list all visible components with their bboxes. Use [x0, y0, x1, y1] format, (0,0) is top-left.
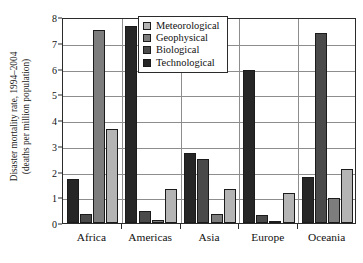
legend-item: Technological [143, 57, 219, 69]
x-tick-mark [180, 224, 181, 229]
legend-item: Geophysical [143, 32, 219, 44]
legend-item: Meteorological [143, 20, 219, 32]
y-tick-label: 3 [52, 141, 57, 152]
bar [302, 177, 314, 223]
y-tick-label: 1 [52, 193, 57, 204]
bar [139, 211, 151, 223]
x-axis-label-asia: Asia [199, 231, 220, 243]
bar [184, 153, 196, 223]
bar [106, 129, 118, 223]
bar [283, 193, 295, 223]
legend-label: Biological [156, 44, 199, 56]
x-tick-mark [238, 224, 239, 229]
x-axis-label-europe: Europe [251, 231, 284, 243]
y-tick-label: 5 [52, 90, 57, 101]
legend-swatch-icon [143, 59, 151, 67]
bar [256, 215, 268, 223]
legend-label: Meteorological [156, 20, 219, 32]
bar [315, 33, 327, 223]
y-tick-label: 8 [52, 13, 57, 24]
bar [341, 169, 353, 223]
y-tick-label: 7 [52, 38, 57, 49]
bar [269, 221, 281, 223]
bar [93, 30, 105, 223]
bar [80, 214, 92, 223]
bar [243, 70, 255, 223]
bar [165, 189, 177, 223]
bar [67, 179, 79, 223]
y-axis-title-line-2: (deaths per million population) [21, 51, 33, 181]
bar [328, 198, 340, 223]
x-tick-mark [121, 224, 122, 229]
chart-figure: Disaster mortality rate, 1994–2004 (deat… [0, 0, 363, 263]
bar [224, 189, 236, 223]
x-axis-label-africa: Africa [77, 231, 106, 243]
bar [197, 159, 209, 223]
legend-swatch-icon [143, 22, 151, 30]
bar [152, 220, 164, 223]
y-tick-label: 4 [52, 116, 57, 127]
legend-label: Geophysical [156, 32, 208, 44]
x-axis-label-americas: Americas [128, 231, 172, 243]
y-tick-label: 2 [52, 167, 57, 178]
y-axis-title-line-1: Disaster mortality rate, 1994–2004 [10, 51, 22, 181]
y-tick-label: 0 [52, 219, 57, 230]
x-tick-mark [297, 224, 298, 229]
legend-swatch-icon [143, 34, 151, 42]
bar [125, 26, 137, 223]
legend-label: Technological [156, 57, 215, 69]
legend-swatch-icon [143, 46, 151, 54]
bar [211, 214, 223, 223]
x-axis-label-oceania: Oceania [308, 231, 345, 243]
y-tick-label: 6 [52, 64, 57, 75]
legend-item: Biological [143, 44, 219, 56]
y-axis-ticks: 012345678 [42, 0, 62, 232]
legend: MeteorologicalGeophysicalBiologicalTechn… [138, 16, 228, 73]
y-axis-title: Disaster mortality rate, 1994–2004 (deat… [0, 0, 42, 232]
